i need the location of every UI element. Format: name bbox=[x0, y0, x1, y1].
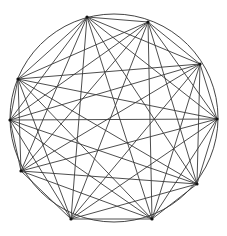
graph-edge bbox=[18, 17, 87, 79]
graph-vertex bbox=[150, 217, 153, 220]
graph-edge bbox=[18, 79, 71, 219]
graph-edge bbox=[18, 64, 200, 79]
graph-edge bbox=[71, 119, 217, 219]
graph-edge bbox=[21, 64, 200, 171]
graph-edge bbox=[148, 22, 152, 219]
graph-vertex bbox=[16, 77, 19, 80]
graph-vertex bbox=[19, 169, 22, 172]
graph-edge bbox=[21, 119, 217, 171]
graph-edge bbox=[148, 22, 200, 64]
graph-vertex bbox=[8, 118, 11, 121]
graph-edges bbox=[10, 17, 217, 219]
graph-edge bbox=[18, 79, 152, 219]
graph-edge bbox=[197, 119, 217, 184]
graph-vertex bbox=[85, 15, 88, 18]
graph-edge bbox=[71, 64, 200, 219]
graph-edge bbox=[21, 17, 87, 171]
graph-edge bbox=[71, 184, 197, 219]
graph-edge bbox=[87, 17, 197, 184]
graph-vertex bbox=[69, 217, 72, 220]
graph-vertex bbox=[195, 182, 198, 185]
graph-edge bbox=[152, 184, 197, 219]
graph-edge bbox=[10, 119, 217, 120]
graph-vertex bbox=[146, 20, 149, 23]
graph-edge bbox=[10, 17, 87, 120]
graph-vertex bbox=[198, 62, 201, 65]
complete-graph-diagram bbox=[0, 0, 227, 236]
graph-edge bbox=[10, 120, 71, 219]
graph-vertex bbox=[215, 117, 218, 120]
